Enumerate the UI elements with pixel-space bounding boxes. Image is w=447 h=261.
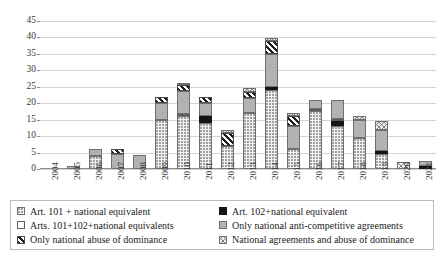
bar-slot [238,21,260,169]
legend-swatch-icon [219,221,227,229]
x-axis-tick-label: 2007 [117,162,126,180]
y-axis-tick-label: 40 [27,33,37,43]
bar-segment-nat_agreements[interactable] [309,100,322,110]
stacked-bar[interactable] [287,113,300,169]
x-axis-tick-label: 2009 [161,162,170,180]
bar-slot [414,21,436,169]
bar-segment-art101[interactable] [309,111,322,169]
x-label-slot: 2018 [348,170,370,196]
bar-segment-nat_agreements[interactable] [155,103,168,119]
bar-segment-art101[interactable] [243,113,256,169]
chart-plot-region: 051015202530354045 200420052006200720082… [0,0,447,196]
legend-item[interactable]: National agreements and abuse of dominan… [219,233,429,247]
bar-slot [172,21,194,169]
y-axis-tick-label: 25 [27,82,37,92]
bar-segment-nat_agreements[interactable] [199,103,212,116]
x-label-slot: 2010 [172,170,194,196]
x-label-slot: 2004 [40,170,62,196]
bar-segment-nat_both[interactable] [375,121,388,129]
x-label-slot: 2021 [414,170,436,196]
legend-swatch-icon [17,221,25,229]
x-axis-tick-label: 2018 [359,162,368,180]
x-label-slot: 2017 [326,170,348,196]
legend-swatch-icon [17,236,25,244]
x-label-slot: 2020 [392,170,414,196]
legend-label: National agreements and abuse of dominan… [232,234,414,245]
x-axis-tick-label: 2008 [139,162,148,180]
x-axis-labels: 2004200520062007200820092010201120122013… [40,170,436,196]
bar-slot [40,21,62,169]
legend-label: Only national abuse of dominance [30,234,167,245]
x-axis-tick-label: 2020 [403,162,412,180]
x-label-slot: 2019 [370,170,392,196]
bar-segment-art101[interactable] [265,90,278,169]
bar-segment-nat_agreements[interactable] [353,120,366,138]
x-axis-tick-label: 2015 [293,162,302,180]
legend-label: Art. 101 + national equivalent [30,206,150,217]
x-label-slot: 2011 [194,170,216,196]
bar-slot [216,21,238,169]
bar-segment-nat_abuse[interactable] [265,41,278,54]
y-axis-tick-label: 45 [27,16,37,26]
legend-item[interactable]: Art. 101 + national equivalent [17,204,213,218]
x-axis-tick-label: 2021 [425,162,434,180]
y-axis-tick-label: 10 [27,131,37,141]
y-axis-tick-label: 30 [27,66,37,76]
bar-segment-nat_abuse[interactable] [221,133,234,146]
bar-slot [260,21,282,169]
x-label-slot: 2013 [238,170,260,196]
bar-segment-nat_agreements[interactable] [265,54,278,87]
legend-swatch-icon [219,207,227,215]
x-axis-tick-label: 2005 [73,162,82,180]
bar-segment-nat_agreements[interactable] [243,98,256,113]
x-label-slot: 2007 [106,170,128,196]
x-axis-tick-label: 2012 [227,162,236,180]
stacked-bar[interactable] [309,100,322,169]
bar-segment-nat_agreements[interactable] [287,126,300,149]
x-label-slot: 2005 [62,170,84,196]
bar-segment-nat_agreements[interactable] [177,91,190,114]
x-label-slot: 2009 [150,170,172,196]
stacked-bar[interactable] [155,97,168,169]
bar-segment-nat_agreements[interactable] [331,100,344,120]
bar-slot [282,21,304,169]
legend-item[interactable]: Art. 102+national equivalent [219,204,429,218]
stacked-bar[interactable] [265,38,278,170]
y-axis-tick-label: 5 [31,148,36,158]
x-axis-tick-label: 2010 [183,162,192,180]
x-label-slot: 2014 [260,170,282,196]
bar-segment-nat_agreements[interactable] [375,130,388,151]
bar-slot [348,21,370,169]
y-axis-tick-label: 35 [27,49,37,59]
bar-slot [128,21,150,169]
x-axis-tick-label: 2019 [381,162,390,180]
bar-slot [62,21,84,169]
legend-label: Only national anti-competitive agreement… [232,220,403,231]
plot-area: 051015202530354045 [40,21,436,169]
chart-legend: Art. 101 + national equivalentArts. 101+… [10,200,434,250]
legend-item[interactable]: Only national abuse of dominance [17,233,213,247]
stacked-bar[interactable] [199,97,212,169]
x-axis-tick-label: 2017 [337,162,346,180]
stacked-bar[interactable] [243,88,256,169]
bar-slot [106,21,128,169]
chart-root: 051015202530354045 200420052006200720082… [0,0,447,261]
bar-group [40,21,436,169]
x-axis-tick-label: 2006 [95,162,104,180]
y-axis-tick-label: 15 [27,115,37,125]
x-axis-tick-label: 2016 [315,162,324,180]
x-axis-tick-label: 2014 [271,162,280,180]
x-label-slot: 2016 [304,170,326,196]
stacked-bar[interactable] [177,83,190,169]
legend-label: Arts. 101+102+national equivalents [30,220,174,231]
stacked-bar[interactable] [331,100,344,169]
bar-slot [150,21,172,169]
x-axis-tick-label: 2013 [249,162,258,180]
legend-item[interactable]: Arts. 101+102+national equivalents [17,218,213,232]
bar-segment-nat_abuse[interactable] [287,116,300,126]
x-axis-tick-label: 2011 [205,162,214,180]
bar-slot [194,21,216,169]
legend-item[interactable]: Only national anti-competitive agreement… [219,218,429,232]
x-label-slot: 2006 [84,170,106,196]
bar-slot [370,21,392,169]
